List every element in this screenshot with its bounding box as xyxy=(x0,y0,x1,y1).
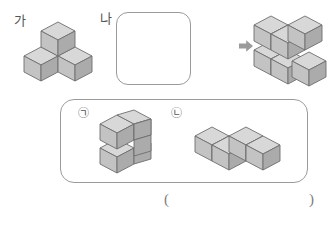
answer-paren-close: ) xyxy=(309,192,314,207)
empty-answer-box[interactable] xyxy=(116,12,191,85)
answer-paren-open: ( xyxy=(164,192,169,207)
cube xyxy=(134,119,151,156)
option-marker-b[interactable]: ㉡ xyxy=(171,108,182,119)
shape-ga-cubes xyxy=(22,18,94,86)
option-a-cubes[interactable] xyxy=(98,116,156,178)
option-marker-a[interactable]: ㉠ xyxy=(78,108,89,119)
shape-label-na: 나 xyxy=(100,12,112,25)
shape-result-cubes xyxy=(252,8,330,92)
option-b-cubes[interactable] xyxy=(193,118,285,176)
worksheet-canvas: 가 xyxy=(0,0,333,225)
